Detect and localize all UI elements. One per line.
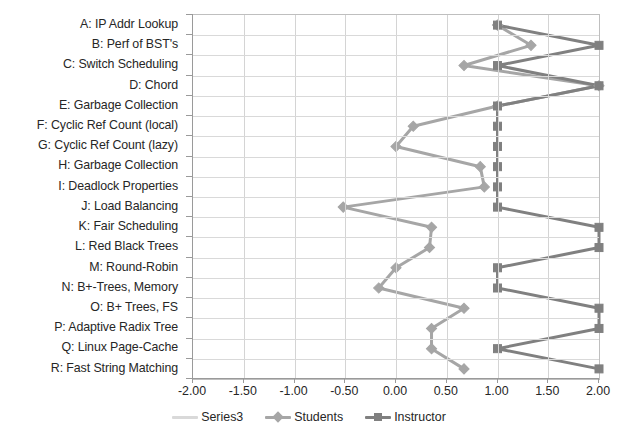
category-label: K: Fair Scheduling	[0, 216, 186, 236]
data-point-marker	[426, 222, 436, 232]
legend-item-students[interactable]: Students	[265, 410, 343, 424]
y-axis-tick	[186, 317, 192, 318]
data-point-marker	[595, 82, 603, 90]
legend-label: Series3	[201, 410, 243, 424]
category-label: F: Cyclic Ref Count (local)	[0, 115, 186, 135]
data-point-marker	[595, 324, 603, 332]
category-label: M: Round-Robin	[0, 257, 186, 277]
category-label: R: Fast String Matching	[0, 358, 186, 378]
y-axis-tick	[186, 135, 192, 136]
chart-legend: Series3StudentsInstructor	[0, 410, 618, 424]
category-label: I: Deadlock Properties	[0, 176, 186, 196]
x-axis-tick-label: 1.00	[484, 384, 508, 398]
legend-label: Students	[294, 410, 343, 424]
data-point-marker	[475, 162, 485, 172]
data-point-marker	[595, 41, 603, 49]
y-axis-tick	[186, 75, 192, 76]
horizontal-gridline	[193, 96, 599, 97]
y-axis-tick	[186, 277, 192, 278]
category-label: J: Load Balancing	[0, 196, 186, 216]
chart-container: A: IP Addr LookupB: Perf of BST'sC: Swit…	[0, 0, 618, 441]
x-axis-tick-label: -0.50	[330, 384, 358, 398]
legend-item-series3[interactable]: Series3	[172, 410, 243, 424]
y-axis-tick	[186, 338, 192, 339]
horizontal-gridline	[193, 298, 599, 299]
category-label: A: IP Addr Lookup	[0, 14, 186, 34]
y-axis-tick	[186, 297, 192, 298]
x-axis-tick	[598, 378, 599, 383]
y-axis-tick	[186, 358, 192, 359]
y-axis-tick	[186, 216, 192, 217]
x-axis-tick	[192, 378, 193, 383]
x-axis-tick	[344, 378, 345, 383]
horizontal-gridline	[193, 197, 599, 198]
x-axis-tick	[243, 378, 244, 383]
horizontal-gridline	[193, 177, 599, 178]
x-axis-tick-label: 2.00	[586, 384, 610, 398]
y-axis-tick	[186, 378, 192, 379]
legend-item-instructor[interactable]: Instructor	[365, 410, 446, 424]
category-label: D: Chord	[0, 75, 186, 95]
horizontal-gridline	[193, 35, 599, 36]
y-axis-tick	[186, 14, 192, 15]
y-axis-tick	[186, 196, 192, 197]
category-label: Q: Linux Page-Cache	[0, 338, 186, 358]
data-point-marker	[595, 365, 603, 373]
horizontal-gridline	[193, 116, 599, 117]
horizontal-gridline	[193, 318, 599, 319]
horizontal-gridline	[193, 278, 599, 279]
category-label: P: Adaptive Radix Tree	[0, 317, 186, 337]
x-axis-tick	[294, 378, 295, 383]
data-point-marker	[595, 244, 603, 252]
value-axis-line	[192, 14, 193, 379]
category-label: O: B+ Trees, FS	[0, 297, 186, 317]
x-axis-tick-label: -1.50	[229, 384, 257, 398]
x-axis-tick-label: -2.00	[178, 384, 206, 398]
category-label: H: Garbage Collection	[0, 156, 186, 176]
x-axis-tick	[446, 378, 447, 383]
x-axis-tick-label: 1.50	[535, 384, 559, 398]
x-axis-tick-label: -1.00	[279, 384, 307, 398]
y-axis-tick	[186, 156, 192, 157]
category-label: C: Switch Scheduling	[0, 54, 186, 74]
legend-marker-icon	[365, 411, 391, 423]
horizontal-gridline	[193, 258, 599, 259]
category-label: B: Perf of BST's	[0, 34, 186, 54]
legend-marker-icon	[265, 411, 291, 423]
y-axis-tick	[186, 176, 192, 177]
horizontal-gridline	[193, 55, 599, 56]
x-axis-tick	[395, 378, 396, 383]
category-label: L: Red Black Trees	[0, 236, 186, 256]
plot-area	[192, 14, 600, 380]
y-axis-tick	[186, 54, 192, 55]
y-axis-tick	[186, 257, 192, 258]
horizontal-gridline	[193, 339, 599, 340]
horizontal-gridline	[193, 217, 599, 218]
y-axis-tick	[186, 115, 192, 116]
legend-label: Instructor	[394, 410, 446, 424]
y-axis-tick	[186, 95, 192, 96]
horizontal-gridline	[193, 76, 599, 77]
legend-marker-icon	[172, 411, 198, 423]
data-point-marker	[595, 304, 603, 312]
horizontal-gridline	[193, 136, 599, 137]
horizontal-gridline	[193, 157, 599, 158]
data-point-marker	[479, 182, 489, 192]
x-axis-tick-label: 0.50	[434, 384, 458, 398]
horizontal-gridline	[193, 359, 599, 360]
category-label: N: B+-Trees, Memory	[0, 277, 186, 297]
data-point-marker	[338, 202, 348, 212]
horizontal-gridline	[193, 237, 599, 238]
x-axis-tick	[497, 378, 498, 383]
category-label: E: Garbage Collection	[0, 95, 186, 115]
x-axis-tick-label: 0.00	[383, 384, 407, 398]
category-label: G: Cyclic Ref Count (lazy)	[0, 135, 186, 155]
x-axis-tick	[547, 378, 548, 383]
data-point-marker	[595, 223, 603, 231]
y-axis-tick	[186, 236, 192, 237]
category-axis-labels: A: IP Addr LookupB: Perf of BST'sC: Swit…	[0, 14, 186, 378]
data-point-marker	[459, 60, 469, 70]
y-axis-tick	[186, 34, 192, 35]
